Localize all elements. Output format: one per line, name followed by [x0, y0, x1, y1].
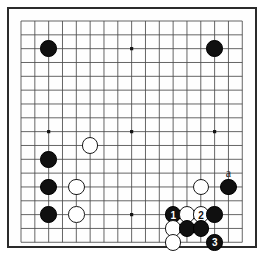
- star-point: [130, 47, 133, 50]
- move-number: 3: [207, 238, 222, 248]
- stone-white: [68, 206, 85, 223]
- stone-black: [40, 206, 57, 223]
- coordinate-label-a: a: [221, 167, 235, 179]
- stone-white: [193, 179, 210, 196]
- star-point: [213, 130, 216, 133]
- stone-black: [206, 40, 223, 57]
- star-point: [130, 130, 133, 133]
- stone-white: [165, 234, 182, 251]
- stone-black-move-3: 3: [206, 234, 223, 251]
- stone-black: [40, 151, 57, 168]
- stone-black: [193, 220, 210, 237]
- stone-black: [220, 179, 237, 196]
- stone-black: [206, 206, 223, 223]
- stone-white: [82, 137, 99, 154]
- stone-black: [40, 179, 57, 196]
- star-point: [47, 130, 50, 133]
- stone-white: [68, 179, 85, 196]
- star-point: [130, 213, 133, 216]
- go-diagram: 123 a: [0, 0, 264, 255]
- stone-black: [40, 40, 57, 57]
